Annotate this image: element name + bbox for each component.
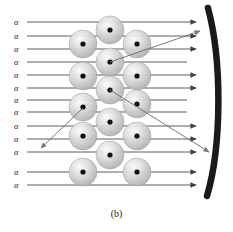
atom (123, 158, 151, 186)
alpha-particle-label: α (14, 168, 18, 177)
atom-nucleus (134, 133, 139, 138)
alpha-particle-label: α (14, 135, 18, 144)
alpha-particle-label: α (14, 181, 18, 190)
atom-nucleus (134, 73, 139, 78)
alpha-particle-label: α (14, 148, 18, 157)
atom (123, 62, 151, 90)
atom (69, 62, 97, 90)
atom-nucleus (107, 152, 112, 157)
atom-nucleus (80, 133, 85, 138)
atom-nucleus (134, 41, 139, 46)
figure-caption: (b) (0, 208, 233, 219)
atom (123, 90, 151, 118)
scattering-diagram-canvas (0, 0, 233, 232)
atom (123, 30, 151, 58)
atom (69, 158, 97, 186)
alpha-particle-label: α (14, 122, 18, 131)
detector-screen-arc (207, 8, 218, 196)
alpha-particle-label: α (14, 71, 18, 80)
alpha-particle-label: α (14, 108, 18, 117)
atom (96, 108, 124, 136)
atom (123, 122, 151, 150)
atom-nucleus (107, 27, 112, 32)
detector-screen-group (207, 8, 218, 196)
atom-nucleus (80, 73, 85, 78)
atom-nucleus (80, 169, 85, 174)
atom (96, 16, 124, 44)
atom (69, 122, 97, 150)
atom-nucleus (134, 169, 139, 174)
alpha-particle-label: α (14, 58, 18, 67)
atom (69, 30, 97, 58)
atom-nucleus (80, 104, 85, 109)
alpha-particle-label: α (14, 18, 18, 27)
alpha-particle-label: α (14, 45, 18, 54)
atom (96, 141, 124, 169)
alpha-particle-label: α (14, 32, 18, 41)
alpha-scattering-figure: ααααααααααααα (b) (0, 0, 233, 232)
alpha-particle-label: α (14, 84, 18, 93)
atom-lattice-group (69, 16, 151, 186)
atom-nucleus (80, 41, 85, 46)
atom-nucleus (107, 119, 112, 124)
alpha-particle-label: α (14, 96, 18, 105)
